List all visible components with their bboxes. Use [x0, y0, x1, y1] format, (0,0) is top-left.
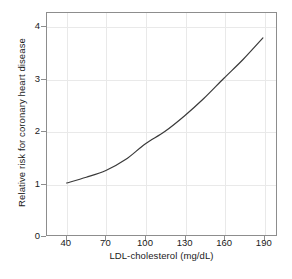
x-tick-label: 130	[172, 238, 198, 248]
y-tick-mark	[41, 236, 46, 237]
x-axis-title: LDL-cholesterol (mg/dL)	[46, 250, 277, 261]
x-tick-label: 190	[251, 238, 277, 248]
y-tick-mark	[41, 26, 46, 27]
x-tick-label: 40	[53, 238, 79, 248]
x-tick-label: 100	[132, 238, 158, 248]
y-tick-label: 0	[26, 231, 40, 241]
y-axis-title: Relative risk for coronary heart disease	[14, 5, 30, 240]
y-tick-label: 1	[26, 179, 40, 189]
x-tick-label: 70	[92, 238, 118, 248]
plot-area	[46, 12, 277, 236]
y-tick-mark	[41, 131, 46, 132]
risk-curve-svg	[47, 13, 276, 235]
y-tick-label: 2	[26, 126, 40, 136]
chart-figure: Relative risk for coronary heart disease…	[0, 0, 292, 279]
x-tick-label: 160	[211, 238, 237, 248]
risk-curve-line	[67, 38, 263, 183]
y-tick-mark	[41, 79, 46, 80]
y-tick-label: 4	[26, 21, 40, 31]
y-tick-mark	[41, 184, 46, 185]
y-tick-label: 3	[26, 74, 40, 84]
